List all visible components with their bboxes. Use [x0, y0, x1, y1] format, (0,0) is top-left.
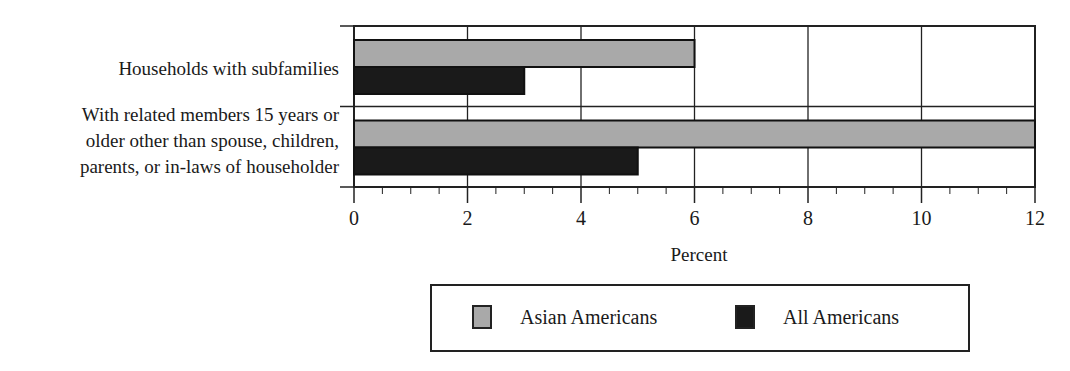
x-axis-title: Percent [671, 244, 728, 266]
legend-item-all-americans: All Americans [735, 305, 899, 329]
category-label-related-members: With related members 15 years or older o… [80, 102, 339, 180]
category-label-line: older other than spouse, children, [80, 128, 339, 154]
category-label-subfamilies: Households with subfamilies [118, 56, 339, 82]
x-tick-label: 2 [463, 207, 473, 230]
bar-asian-americans [354, 40, 695, 67]
category-label-line: Households with subfamilies [118, 56, 339, 82]
category-label-line: parents, or in-laws of householder [80, 154, 339, 180]
legend-swatch-black-icon [735, 305, 755, 329]
x-tick-label: 0 [349, 207, 359, 230]
x-tick-label: 6 [690, 207, 700, 230]
x-tick-label: 4 [576, 207, 586, 230]
legend-item-asian-americans: Asian Americans [472, 305, 657, 329]
category-label-line: With related members 15 years or [80, 102, 339, 128]
legend-label: Asian Americans [520, 306, 657, 329]
legend-swatch-gray-icon [472, 305, 492, 329]
x-tick-label: 12 [1025, 207, 1045, 230]
x-tick-label: 10 [912, 207, 932, 230]
x-tick-label: 8 [803, 207, 813, 230]
bar-all-americans [354, 67, 524, 94]
bar-all-americans [354, 148, 638, 175]
legend: Asian Americans All Americans [430, 284, 970, 352]
bar-asian-americans [354, 121, 1035, 148]
legend-label: All Americans [783, 306, 899, 329]
